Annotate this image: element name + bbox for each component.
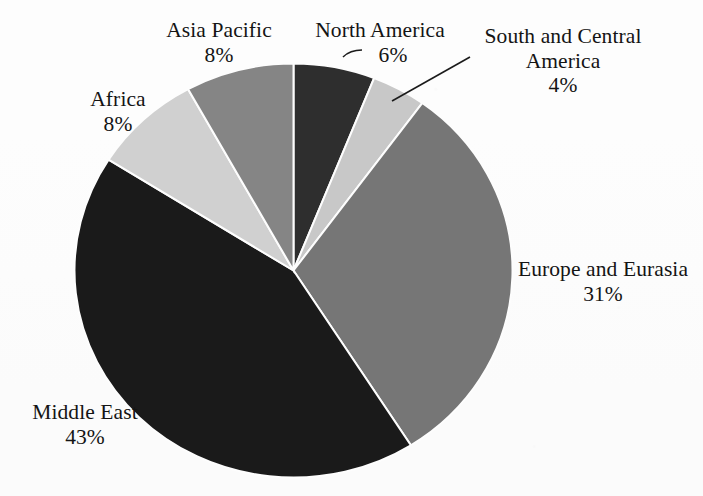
slice-label-north-america-value: 6% [318, 43, 468, 68]
slice-label-middle-east-name: Middle East [10, 400, 160, 425]
slice-label-south-central-america-name: South and Central America [470, 24, 656, 73]
slice-label-asia-pacific-value: 8% [144, 43, 294, 68]
slice-label-europe-and-eurasia-name: Europe and Eurasia [508, 257, 698, 282]
slice-label-south-central-america: South and Central America 4% [470, 24, 656, 98]
slice-label-north-america-name: North America [292, 18, 468, 43]
slice-label-africa-value: 8% [58, 112, 178, 137]
slice-label-africa: Africa 8% [58, 87, 178, 136]
slice-label-asia-pacific: Asia Pacific 8% [144, 18, 294, 67]
slice-label-africa-name: Africa [58, 87, 178, 112]
slice-label-middle-east: Middle East 43% [10, 400, 160, 449]
slice-label-middle-east-value: 43% [10, 425, 160, 450]
slice-label-north-america: North America 6% [292, 18, 468, 67]
slice-label-europe-and-eurasia: Europe and Eurasia 31% [508, 257, 698, 306]
slice-label-south-central-america-value: 4% [470, 73, 656, 98]
slice-label-europe-and-eurasia-value: 31% [508, 282, 698, 307]
slice-label-asia-pacific-name: Asia Pacific [144, 18, 294, 43]
